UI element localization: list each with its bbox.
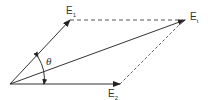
label-e2: E2 bbox=[108, 89, 118, 100]
angle-arc bbox=[38, 57, 44, 84]
label-e1-top: E1 bbox=[66, 6, 76, 18]
label-resultant: Et bbox=[190, 12, 198, 24]
vector-resultant bbox=[10, 20, 185, 84]
label-theta: θ bbox=[46, 56, 51, 67]
vector-e1 bbox=[10, 20, 70, 84]
parallelogram-diagram: E1 Et E2 θ bbox=[0, 0, 210, 100]
dashed-right bbox=[120, 21, 183, 84]
vector-lines bbox=[0, 0, 210, 100]
